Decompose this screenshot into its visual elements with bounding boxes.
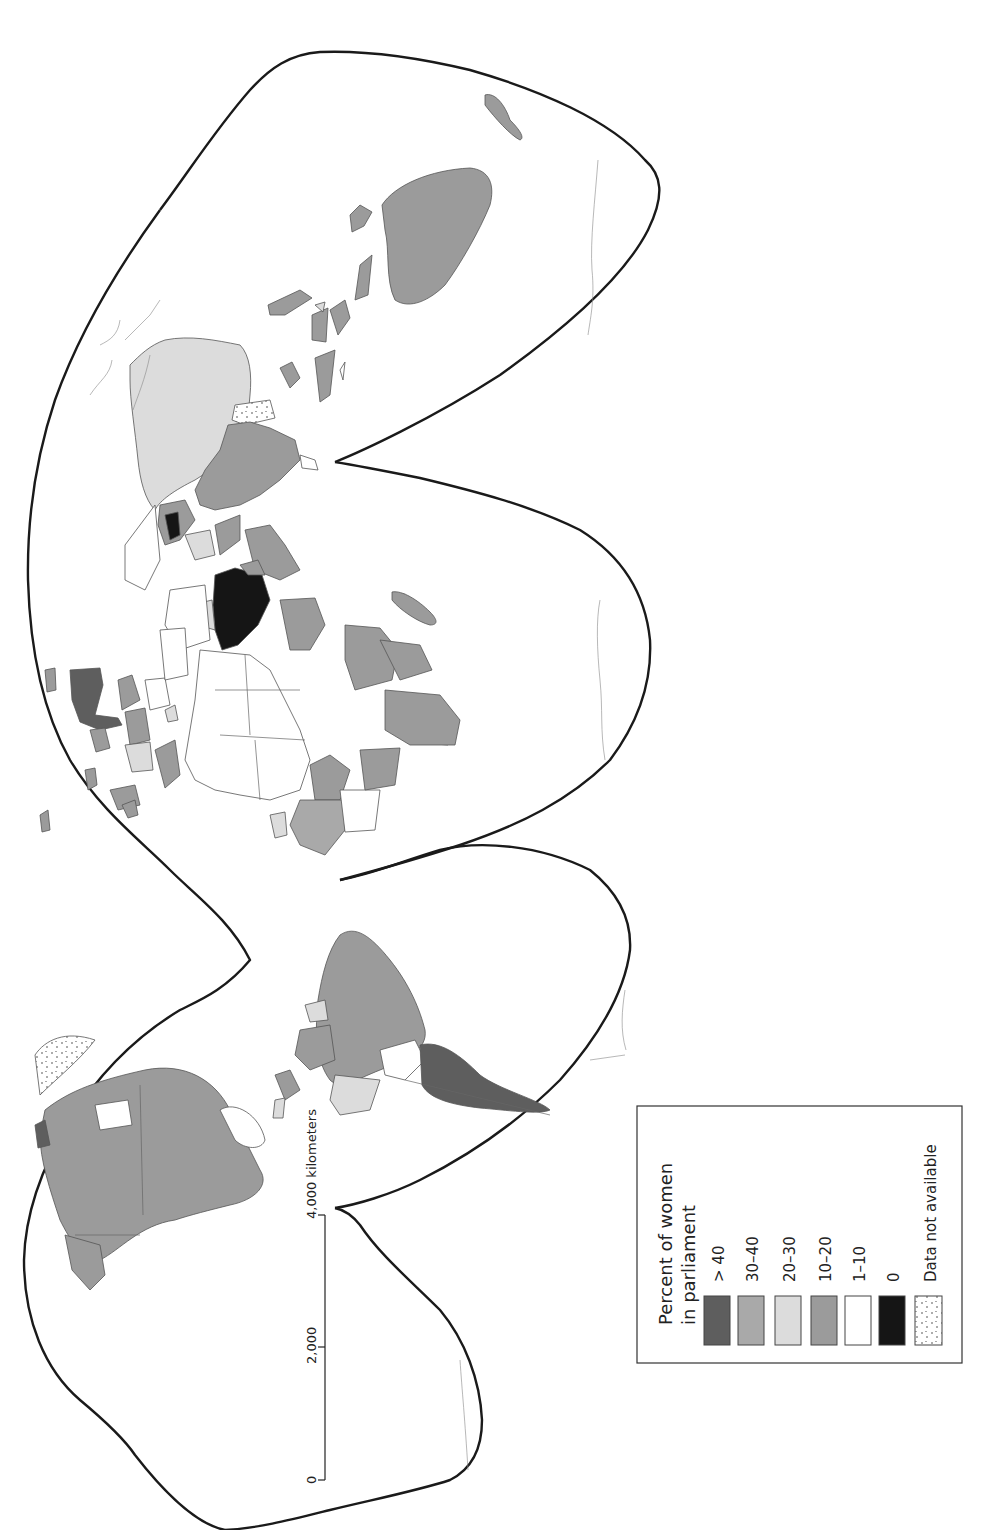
legend-swatch-1-10: [845, 1296, 871, 1345]
legend-swatch-20-30: [775, 1296, 801, 1345]
scale-tick-2000: 2,000: [304, 1327, 319, 1364]
region-north-america: [40, 1068, 263, 1261]
region-southern-africa: [290, 800, 345, 855]
world-map: 0 2,000 4,000 kilometers Percent of wome…: [0, 0, 989, 1530]
region-new-zealand: [485, 95, 522, 140]
region-saudi-arabia: [213, 568, 270, 650]
region-australia: [382, 168, 492, 304]
region-nordic: [70, 668, 122, 730]
legend-title-line1: Percent of women: [655, 1163, 676, 1325]
legend-label-20-30: 20–30: [781, 1236, 799, 1282]
scale-bar: 0 2,000 4,000 kilometers: [304, 1109, 325, 1484]
legend-label-0: 0: [885, 1272, 903, 1282]
scale-tick-0: 0: [304, 1476, 319, 1484]
land-layer: [35, 95, 626, 1470]
region-greenland: [35, 1036, 95, 1095]
legend-swatch-10-20: [811, 1296, 837, 1345]
legend-swatch-gt40: [704, 1296, 730, 1345]
legend-swatch-30-40: [738, 1296, 764, 1345]
legend-label-10-20: 10–20: [817, 1236, 835, 1282]
legend-swatch-0: [879, 1296, 905, 1345]
legend: Percent of women in parliament > 40 30–4…: [637, 1106, 962, 1363]
legend-label-na: Data not available: [922, 1144, 940, 1282]
legend-title-line2: in parliament: [678, 1205, 699, 1325]
legend-label-1-10: 1–10: [851, 1246, 869, 1282]
region-north-africa: [185, 650, 310, 800]
scale-tick-4000: 4,000 kilometers: [304, 1109, 319, 1219]
region-madagascar: [392, 592, 436, 625]
region-argentina: [420, 1044, 550, 1112]
legend-label-gt40: > 40: [710, 1246, 728, 1282]
legend-label-30-40: 30–40: [744, 1236, 762, 1282]
legend-swatch-na: [915, 1296, 942, 1345]
